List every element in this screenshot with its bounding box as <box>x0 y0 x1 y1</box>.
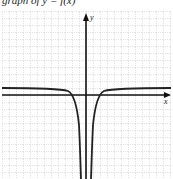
y-axis-label: y <box>89 13 94 22</box>
x-axis-label: x <box>163 97 168 106</box>
function-graph: x y <box>0 0 173 179</box>
